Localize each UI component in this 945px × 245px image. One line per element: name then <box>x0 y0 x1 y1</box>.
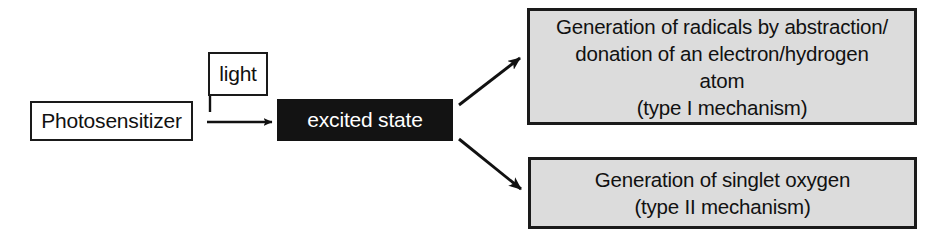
node-type-i-line-2: donation of an electron/hydrogen <box>575 40 868 67</box>
photosensitization-diagram: Photosensitizer light excited state Gene… <box>0 0 945 245</box>
arrow-excited-state-to-type-i <box>459 58 520 105</box>
node-type-ii-mechanism: Generation of singlet oxygen (type II me… <box>528 157 917 229</box>
node-excited-state-label: excited state <box>307 108 422 132</box>
node-type-i-line-4: (type I mechanism) <box>637 94 808 121</box>
arrow-excited-state-to-type-ii <box>459 139 521 189</box>
node-light: light <box>208 52 268 96</box>
node-excited-state: excited state <box>277 99 453 141</box>
node-type-ii-line-2: (type II mechanism) <box>634 193 810 220</box>
node-light-label: light <box>219 62 257 86</box>
node-type-i-line-3: atom <box>700 67 745 94</box>
node-type-i-line-1: Generation of radicals by abstraction/ <box>556 13 888 40</box>
node-type-i-mechanism: Generation of radicals by abstraction/ d… <box>527 8 917 125</box>
node-photosensitizer-label: Photosensitizer <box>41 109 182 133</box>
node-photosensitizer: Photosensitizer <box>30 101 193 141</box>
node-type-ii-line-1: Generation of singlet oxygen <box>595 166 850 193</box>
